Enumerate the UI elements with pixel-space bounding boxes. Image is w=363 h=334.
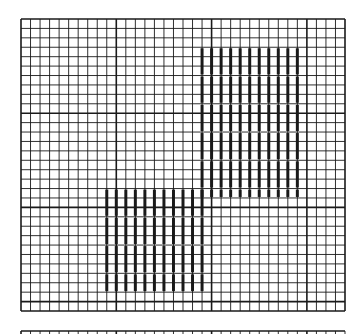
stitch-chart [0, 0, 363, 334]
